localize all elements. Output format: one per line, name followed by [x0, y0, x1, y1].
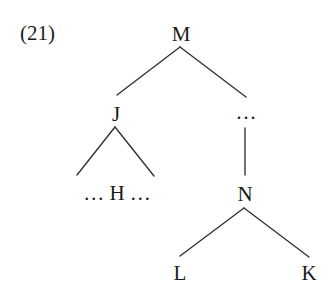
- syntax-tree-diagram: (21) M J … … H … N L K: [0, 0, 336, 290]
- edge-m-j: [117, 47, 180, 95]
- node-j-child-h: … H …: [83, 183, 151, 204]
- node-n: N: [237, 184, 252, 205]
- node-k: K: [301, 263, 316, 284]
- example-number: (21): [20, 23, 55, 44]
- edge-m-ellipsis: [180, 47, 246, 97]
- edge-j-right: [115, 127, 154, 176]
- edge-n-l: [180, 208, 244, 256]
- edge-j-left: [77, 127, 115, 175]
- node-l: L: [174, 263, 187, 284]
- edge-n-k: [244, 208, 309, 257]
- node-m: M: [172, 24, 191, 45]
- node-j: J: [112, 104, 120, 125]
- node-ellipsis: …: [236, 102, 257, 123]
